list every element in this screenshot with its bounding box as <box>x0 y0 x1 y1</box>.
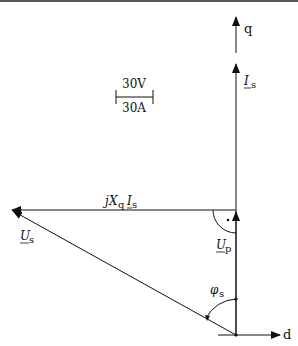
phasor-jXqIs: j X q I s <box>12 194 236 210</box>
scale-bar: 30V 30A <box>116 77 153 115</box>
q-axis: q <box>236 17 252 53</box>
phasor-Us: U s <box>13 211 236 335</box>
Is-label-sub: s <box>251 79 256 90</box>
d-axis: d <box>218 327 291 342</box>
phasor-diagram: q I s U p j X q I s U s d <box>0 0 298 346</box>
right-angle-mark <box>213 210 236 233</box>
Is-label-main: I <box>243 74 249 88</box>
phi-s-sub: s <box>219 288 224 299</box>
angle-phi-s: φ s <box>205 283 238 321</box>
phi-s-main: φ <box>210 283 219 297</box>
scale-current-label: 30A <box>122 101 146 115</box>
jXqIs-Isub: s <box>132 199 137 210</box>
q-axis-label: q <box>244 21 252 36</box>
d-axis-label: d <box>283 327 291 342</box>
Up-label-sub: p <box>225 243 231 254</box>
phasor-Is: I s <box>236 64 256 335</box>
jXqIs-Xsub: q <box>118 199 125 210</box>
scale-voltage-label: 30V <box>122 77 146 91</box>
Us-label-sub: s <box>29 234 34 245</box>
jXqIs-j: j <box>102 194 109 208</box>
jXqIs-X: X <box>108 194 118 208</box>
